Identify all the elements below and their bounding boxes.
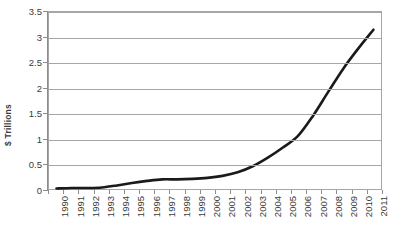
x-tick-mark [154, 190, 155, 194]
y-tick-mark [43, 139, 48, 140]
x-tick-label: 1994 [121, 196, 131, 217]
x-tick-mark [185, 190, 186, 194]
x-tick-label: 2005 [288, 196, 298, 217]
y-tick-label: 3.5 [14, 6, 46, 17]
x-tick-mark [261, 190, 262, 194]
x-tick-label: 2003 [258, 196, 268, 217]
x-tick-label: 1991 [76, 196, 86, 217]
gridline [49, 140, 381, 141]
y-tick-mark [43, 88, 48, 89]
x-tick-mark [124, 190, 125, 194]
y-tick-mark [43, 113, 48, 114]
x-tick-mark [109, 190, 110, 194]
gridline [49, 38, 381, 39]
x-tick-label: 2004 [273, 196, 283, 217]
x-tick-label: 2011 [379, 196, 389, 216]
x-tick-label: 1998 [182, 196, 192, 217]
y-tick-label: 3 [14, 31, 46, 42]
x-tick-mark [94, 190, 95, 194]
y-tick-mark [43, 190, 48, 191]
x-tick-label: 1993 [106, 196, 116, 217]
x-tick-mark [367, 190, 368, 194]
x-axis: 1990199119921993199419951996199719981999… [48, 190, 382, 251]
gridline [49, 89, 381, 90]
x-tick-mark [336, 190, 337, 194]
x-tick-label: 2001 [228, 196, 238, 217]
y-axis-title-text: $ Trillions [3, 104, 13, 146]
x-tick-label: 2000 [212, 196, 222, 217]
gridline [49, 114, 381, 115]
x-tick-label: 1996 [152, 196, 162, 217]
x-tick-mark [352, 190, 353, 194]
x-tick-mark [291, 190, 292, 194]
x-tick-mark [230, 190, 231, 194]
y-tick-label: 1.5 [14, 108, 46, 119]
x-tick-mark [48, 190, 49, 194]
x-tick-label: 2006 [304, 196, 314, 217]
gridline [49, 12, 381, 13]
y-tick-label: 1 [14, 133, 46, 144]
y-tick-label: 0 [14, 185, 46, 196]
y-tick-mark [43, 164, 48, 165]
y-tick-label: 0.5 [14, 159, 46, 170]
x-tick-mark [245, 190, 246, 194]
x-tick-label: 1999 [197, 196, 207, 217]
x-tick-mark [215, 190, 216, 194]
y-tick-mark [43, 37, 48, 38]
gridline [49, 63, 381, 64]
x-tick-mark [63, 190, 64, 194]
x-tick-mark [169, 190, 170, 194]
y-tick-mark [43, 11, 48, 12]
x-tick-label: 1997 [167, 196, 177, 217]
x-tick-mark [321, 190, 322, 194]
x-tick-label: 1990 [61, 196, 71, 217]
x-tick-label: 2010 [364, 196, 374, 217]
x-tick-label: 2007 [319, 196, 329, 217]
x-tick-label: 1992 [91, 196, 101, 217]
y-tick-mark [43, 62, 48, 63]
y-axis-tick-labels: 00.511.522.533.5 [14, 0, 46, 251]
x-tick-mark [382, 190, 383, 194]
plot-area [48, 11, 382, 190]
chart-screenshot: $ Trillions 00.511.522.533.5 19901991199… [0, 0, 400, 251]
x-tick-label: 2009 [349, 196, 359, 217]
x-tick-mark [276, 190, 277, 194]
x-tick-label: 1995 [137, 196, 147, 217]
x-tick-mark [200, 190, 201, 194]
y-tick-label: 2 [14, 82, 46, 93]
x-tick-mark [139, 190, 140, 194]
y-tick-label: 2.5 [14, 57, 46, 68]
gridline [49, 165, 381, 166]
x-tick-label: 2008 [334, 196, 344, 217]
x-tick-mark [78, 190, 79, 194]
x-tick-mark [306, 190, 307, 194]
x-tick-label: 2002 [243, 196, 253, 217]
